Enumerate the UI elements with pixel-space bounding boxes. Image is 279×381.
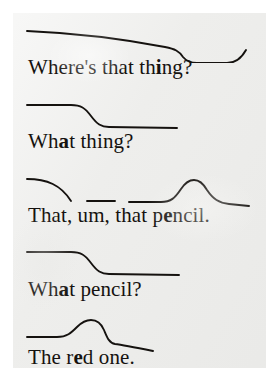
figure-page: Where's that thing? What thing? That, um… xyxy=(0,0,279,381)
utterance-text: What thing? xyxy=(28,129,134,154)
stressed-syllable: e xyxy=(73,345,82,369)
text-before: Where's that th xyxy=(28,55,156,79)
text-before: Wh xyxy=(28,129,59,153)
contour-path xyxy=(27,252,179,275)
stressed-syllable: a xyxy=(59,129,70,153)
utterance-text: That, um, that pencil. xyxy=(28,203,210,228)
text-before: That, um, that p xyxy=(28,203,163,227)
stressed-syllable: e xyxy=(163,203,172,227)
utterance-text: Where's that thing? xyxy=(28,55,192,80)
scanned-paper-panel: Where's that thing? What thing? That, um… xyxy=(13,13,266,368)
text-after: t thing? xyxy=(69,129,133,153)
contour-path xyxy=(27,105,177,128)
text-after: ncil. xyxy=(173,203,210,227)
text-after: ng? xyxy=(162,55,193,79)
text-before: Wh xyxy=(28,277,59,301)
text-after: d one. xyxy=(83,345,135,369)
utterance-text: The red one. xyxy=(28,345,135,370)
text-after: t pencil? xyxy=(69,277,142,301)
contour-path-segment-1 xyxy=(27,179,71,201)
utterance-text: What pencil? xyxy=(28,277,142,302)
text-before: The r xyxy=(28,345,73,369)
stressed-syllable: a xyxy=(59,277,70,301)
